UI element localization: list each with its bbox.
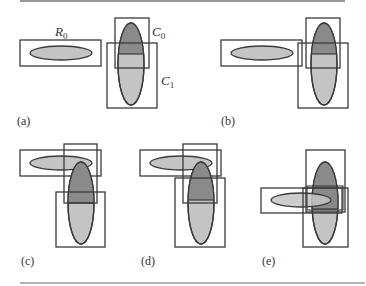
panel-c: (c) — [20, 144, 105, 268]
panel-label-a: (a) — [17, 114, 30, 128]
panel-label-e: (e) — [262, 254, 275, 268]
panel-label-d: (d) — [141, 254, 155, 268]
horizontal-ellipse — [271, 193, 331, 207]
label-c0: C0 — [152, 24, 166, 41]
panel-label-b: (b) — [221, 114, 235, 128]
panel-e: (e) — [261, 150, 348, 268]
panel-label-c: (c) — [21, 254, 34, 268]
diagram-figure: R0 C0 C1 (a) (b) (c) (d) — [0, 0, 366, 286]
panel-a: R0 C0 C1 (a) — [17, 18, 174, 128]
panel-d: (d) — [140, 144, 225, 268]
panel-b: (b) — [221, 18, 348, 128]
horizontal-ellipse — [30, 46, 92, 60]
label-r0: R0 — [54, 24, 68, 41]
horizontal-ellipse — [231, 46, 293, 60]
label-c1: C1 — [161, 73, 174, 90]
